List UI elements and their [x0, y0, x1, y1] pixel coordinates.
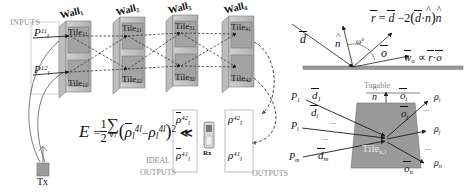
tile-output-dir-1: oi	[400, 90, 407, 103]
outgoing-vector-label: o	[381, 47, 387, 59]
tile-output-rho-1: ρi	[434, 92, 441, 103]
reflection-equation: r = d −2(d·n)n	[371, 11, 442, 25]
tile-input-power-3: Pm	[289, 152, 300, 163]
tile-output-rho-2: ρj	[434, 124, 441, 135]
rx-device	[204, 122, 214, 148]
tx-feed-upper	[29, 41, 59, 162]
input-power-1: P11l	[34, 27, 49, 40]
output-value-1: ρ42l	[228, 114, 242, 127]
output-value-2: ρ41l	[228, 150, 242, 163]
tx-label: Tx	[37, 177, 48, 187]
tile-input-dir-1: d1	[312, 90, 321, 103]
weight-equation: wo ∝ r·o	[404, 52, 442, 65]
tile-output-dir-2: oj	[401, 108, 408, 121]
output-flow	[252, 42, 276, 143]
tile-label-22: Tile22	[122, 75, 142, 85]
tile-input-dir-2: di	[311, 107, 318, 120]
tile-label-12: Tile12	[68, 79, 88, 89]
normal-vector-label: n	[335, 38, 341, 49]
tile-output-ellipsis-1: ...	[423, 105, 429, 113]
tile-label-32: Tile32	[175, 73, 195, 83]
ideal-output-value-1: ρ42l	[176, 114, 190, 127]
tile-input-ellipsis-1: ...	[330, 118, 336, 126]
tile-normal-label: n	[372, 92, 377, 102]
tile-input-power-1: P1	[291, 92, 300, 103]
angle-label: ω°	[356, 38, 364, 46]
tile-label: Tilek,l	[362, 143, 386, 156]
tile-label-21: Tile21	[122, 24, 142, 34]
tile-input-power-2: Pi	[291, 121, 299, 132]
tile-label-41: Tile41	[231, 23, 251, 33]
tile-output-rho-3: ρn	[434, 158, 442, 169]
tile-label-42: Tile42	[231, 74, 251, 84]
tile-label-11: Tile11	[68, 28, 88, 38]
rx-label: Rx	[203, 150, 212, 157]
outputs-label: OUTPUTS	[252, 170, 288, 178]
tile-label-31: Tile31	[175, 22, 195, 32]
ideal-outputs-label-line1: IDEAL	[146, 157, 170, 165]
input-power-2: P12l	[34, 64, 49, 77]
ideal-outputs-label-line2: OUTPUTS	[140, 169, 176, 177]
tile-output-ellipsis-2: ...	[425, 144, 431, 152]
tx-antenna	[37, 146, 49, 176]
incident-vector-label: d	[300, 33, 306, 45]
tile-input-ellipsis-2: ...	[322, 134, 328, 142]
ideal-output-value-2: ρ41l	[176, 150, 190, 163]
ray-network	[70, 33, 236, 72]
tile-input-dir-3: dm	[318, 150, 328, 163]
tile-output-dir-3: on	[404, 163, 413, 176]
